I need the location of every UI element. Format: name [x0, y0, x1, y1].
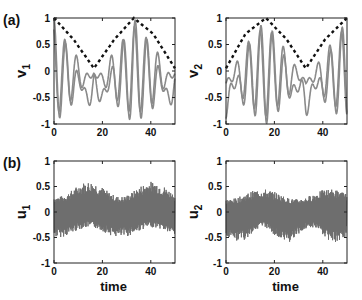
y-tick-label: -1: [213, 119, 222, 130]
y-tick-label: 0: [44, 207, 50, 218]
x-axis-label: time: [272, 279, 299, 294]
subplot-3: 10.50-0.5-102040u1time(b): [3, 155, 175, 294]
x-tick-label: 40: [145, 266, 157, 277]
x-tick-label: 20: [97, 266, 109, 277]
x-tick-label: 40: [317, 127, 329, 138]
y-tick-label: 0.5: [36, 39, 50, 50]
subplot-2: 10.50-0.5-102040v2: [184, 13, 347, 139]
x-tick-label: 20: [269, 266, 281, 277]
y-tick-label: -0.5: [33, 92, 51, 103]
x-tick-label: 0: [51, 127, 57, 138]
panel-label: (a): [3, 12, 20, 28]
y-tick-label: -0.5: [33, 232, 51, 243]
y-tick-label: 1: [44, 13, 50, 24]
y-tick-label: 0: [216, 66, 222, 77]
y-tick-label: 1: [216, 13, 222, 24]
y-tick-label: 0.5: [208, 181, 222, 192]
y-tick-label: 0: [44, 66, 50, 77]
x-tick-label: 0: [51, 266, 57, 277]
envelope-dashed-line: [54, 18, 175, 68]
figure: 10.50-0.5-102040v1(a)10.50-0.5-102040v21…: [0, 0, 362, 300]
subplot-4: 10.50-0.5-102040u2time: [184, 156, 347, 295]
y-axis-label: u1: [12, 204, 32, 219]
subplot-1: 10.50-0.5-102040v1(a): [3, 12, 175, 138]
y-tick-label: -0.5: [205, 232, 223, 243]
signal-line: [226, 190, 347, 242]
signal-line: [54, 182, 175, 237]
x-axis-label: time: [100, 279, 127, 294]
y-tick-label: 1: [44, 156, 50, 167]
y-tick-label: 0.5: [36, 181, 50, 192]
y-axis-label: u2: [184, 204, 204, 219]
y-tick-label: -1: [41, 258, 50, 269]
y-tick-label: -1: [213, 258, 222, 269]
y-axis-label: v1: [12, 64, 32, 78]
y-tick-label: 0: [216, 207, 222, 218]
y-tick-label: 0.5: [208, 39, 222, 50]
x-tick-label: 40: [317, 266, 329, 277]
y-tick-label: -0.5: [205, 92, 223, 103]
y-axis-label: v2: [184, 64, 204, 78]
x-tick-label: 0: [223, 127, 229, 138]
x-tick-label: 20: [269, 127, 281, 138]
x-tick-label: 40: [145, 127, 157, 138]
x-tick-label: 20: [97, 127, 109, 138]
y-tick-label: -1: [41, 119, 50, 130]
x-tick-label: 0: [223, 266, 229, 277]
panel-label: (b): [3, 155, 21, 171]
y-tick-label: 1: [216, 156, 222, 167]
